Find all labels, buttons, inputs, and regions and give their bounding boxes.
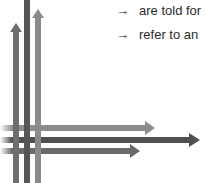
vertical-bar-middle [24,0,30,183]
bullet-text: refer to an [139,27,198,42]
left-fade [0,118,12,162]
bullet-item: → refer to an [116,27,198,42]
bullet-text: are told for [139,3,201,18]
vertical-arrow-right [32,9,44,183]
arrow-right-icon: → [116,3,130,18]
bullet-item: → are told for [116,3,201,18]
arrow-right-icon: → [116,27,130,42]
